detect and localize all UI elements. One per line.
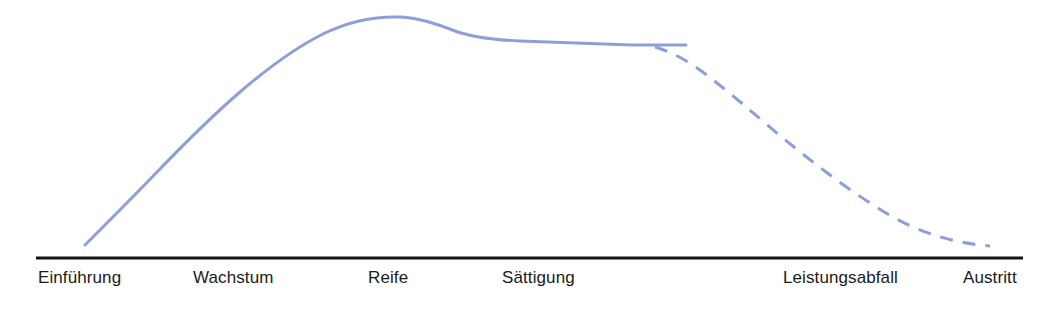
phase-label-saettigung: Sättigung — [502, 267, 575, 289]
phase-label-leistungsabfall: Leistungsabfall — [783, 267, 898, 289]
phase-label-reife: Reife — [368, 267, 408, 289]
phase-label-row: Einführung Wachstum Reife Sättigung Leis… — [0, 267, 1057, 297]
phase-label-einfuehrung: Einführung — [38, 267, 121, 289]
phase-label-wachstum: Wachstum — [193, 267, 273, 289]
phase-label-austritt: Austritt — [963, 267, 1017, 289]
performance-lifecycle-chart — [0, 0, 1057, 310]
solid-performance-curve — [85, 17, 686, 245]
lifecycle-curve-figure: Einführung Wachstum Reife Sättigung Leis… — [0, 0, 1057, 310]
dashed-decline-curve — [655, 47, 990, 246]
